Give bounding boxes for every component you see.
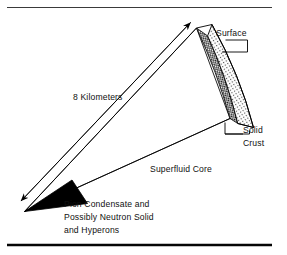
scale-arrow [21,23,191,202]
inner-core-label-line2: Possibly Neutron Solid [64,212,154,222]
surface-label: Surface [216,28,247,38]
figure-container: 8 Kilometers Surface Solid Crust Superfl… [0,0,287,255]
neutron-star-wedge-diagram: 8 Kilometers Surface Solid Crust Superfl… [0,0,287,255]
solid-crust-label-line1: Solid [243,125,263,135]
solid-crust-label-line2: Crust [243,138,265,148]
superfluid-core-region [25,28,231,212]
surface-leader [222,40,248,52]
wedge-upper-edge [25,28,197,212]
superfluid-core-label: Superfluid Core [150,164,212,174]
scale-arrow-label: 8 Kilometers [73,92,123,102]
inner-core-label-line3: and Hyperons [64,225,119,235]
shell-top-edge [197,25,213,29]
inner-core-label-line1: Pion Condensate and [64,199,150,209]
